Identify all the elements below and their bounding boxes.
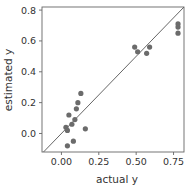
y-tick-label: 0.8 (21, 5, 36, 16)
x-tick-label: 0.00 (51, 156, 72, 167)
data-point (65, 128, 70, 133)
data-point (132, 45, 137, 50)
y-tick-label: 0.0 (21, 128, 36, 139)
axes: 0.000.250.500.750.00.20.40.60.8 (21, 5, 184, 167)
x-axis-label: actual y (96, 173, 138, 185)
data-point (69, 122, 74, 127)
data-point (83, 126, 88, 131)
y-tick-label: 0.6 (21, 35, 36, 46)
data-point (66, 112, 71, 117)
data-point (135, 49, 140, 54)
x-tick-label: 0.50 (126, 156, 147, 167)
plot-area (42, 7, 184, 154)
data-point (147, 45, 152, 50)
data-point (72, 117, 77, 122)
data-point (71, 139, 76, 144)
data-point (75, 100, 80, 105)
x-tick-label: 0.25 (88, 156, 109, 167)
data-point (65, 143, 70, 148)
data-points (63, 21, 180, 148)
data-point (78, 91, 83, 96)
scatter-chart: 0.000.250.500.750.00.20.40.60.8 actual y… (0, 0, 188, 193)
x-tick-label: 0.75 (163, 156, 184, 167)
data-point (144, 51, 149, 56)
data-point (74, 106, 79, 111)
y-axis-label: estimated y (2, 49, 14, 111)
y-tick-label: 0.2 (21, 97, 36, 108)
data-point (175, 24, 180, 29)
data-point (175, 31, 180, 36)
y-tick-label: 0.4 (21, 66, 36, 77)
reference-line (42, 7, 184, 154)
